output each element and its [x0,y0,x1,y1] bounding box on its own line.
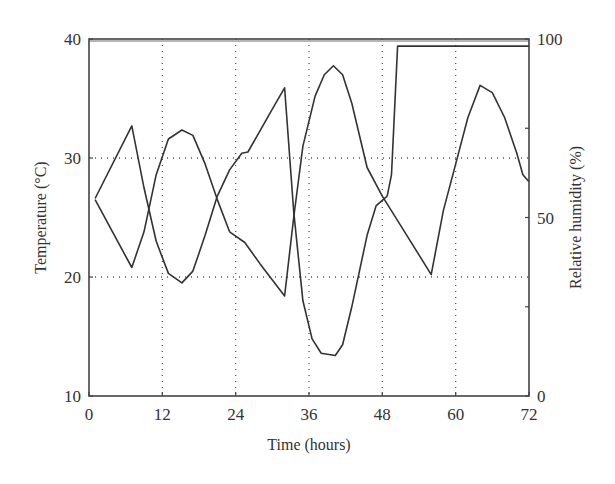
x-tick-label: 48 [374,405,391,424]
y-left-tick-label: 40 [64,30,81,49]
x-tick-label: 0 [85,405,94,424]
y-left-tick-label: 10 [64,387,81,406]
x-axis-label: Time (hours) [267,436,350,454]
x-tick-label: 12 [154,405,171,424]
x-tick-label: 60 [447,405,464,424]
y-right-axis-ticks: 050100 [525,30,563,406]
data-series [89,41,529,356]
series-line-temperature [95,88,387,356]
y-left-axis-label: Temperature (°C) [32,161,50,273]
y-right-tick-label: 100 [537,30,563,49]
grid-lines [89,39,529,396]
plot-frame [89,39,529,396]
x-tick-label: 36 [301,405,318,424]
series-line-relative-humidity [95,66,529,296]
series-line-relative-humidity-saturated- [387,46,529,196]
dual-axis-line-chart: 0122436486072 10203040 050100 Time (hour… [0,0,615,484]
y-left-tick-label: 20 [64,268,81,287]
x-tick-label: 24 [227,405,245,424]
y-right-tick-label: 50 [537,209,554,228]
x-tick-label: 72 [521,405,538,424]
y-right-tick-label: 0 [537,387,546,406]
y-right-axis-label: Relative humidity (%) [567,146,585,289]
y-left-tick-label: 30 [64,149,81,168]
